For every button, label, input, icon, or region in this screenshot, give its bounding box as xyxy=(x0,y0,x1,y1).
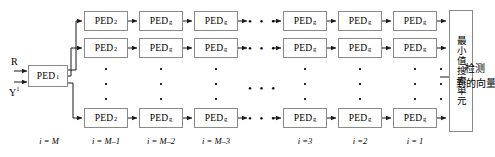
input-y-label: Y1 xyxy=(9,85,19,98)
ped-subscript: g xyxy=(224,18,227,25)
ped-subscript: g xyxy=(224,45,227,52)
ped-label: PED xyxy=(205,16,224,26)
ped-box-r3c6[interactable]: PEDg xyxy=(393,108,437,128)
ped-label: PED xyxy=(95,113,114,123)
ped-subscript: g xyxy=(313,45,316,52)
ellipsis-vertical-col5 xyxy=(359,68,361,100)
ped-label: PED xyxy=(150,16,169,26)
ped-subscript: 2 xyxy=(114,45,117,52)
ped-label: PED xyxy=(294,43,313,53)
ellipsis-vertical-col4 xyxy=(304,68,306,100)
ped-label: PED xyxy=(404,43,423,53)
ped-label: PED xyxy=(294,16,313,26)
ped-box-r1c3[interactable]: PEDg xyxy=(194,11,238,31)
index-label-2: i = M–2 xyxy=(137,136,185,146)
index-label-3: i = M–3 xyxy=(192,136,240,146)
ped-subscript: g xyxy=(169,18,172,25)
index-label-0: i = M xyxy=(28,136,70,146)
ped-subscript: g xyxy=(368,115,371,122)
ped-label: PED xyxy=(404,113,423,123)
ped-box-r1c1[interactable]: PED2 xyxy=(84,11,128,31)
output-line1: 检测 xyxy=(456,62,494,77)
ped-label: PED xyxy=(205,43,224,53)
ped-subscript: g xyxy=(224,115,227,122)
ped-label: PED xyxy=(150,113,169,123)
ped-subscript: g xyxy=(368,45,371,52)
ped-box-r1c2[interactable]: PEDg xyxy=(139,11,183,31)
output-line2: 到的向量 xyxy=(456,77,494,92)
index-label-4: i =3 xyxy=(281,136,329,146)
ped-label: PED xyxy=(95,16,114,26)
ped-subscript: 1 xyxy=(56,73,59,80)
ped-subscript: g xyxy=(169,45,172,52)
ellipsis-vertical-col6 xyxy=(414,68,416,100)
ped-subscript: g xyxy=(368,18,371,25)
ped-subscript: g xyxy=(313,18,316,25)
ped-box-r3c3[interactable]: PEDg xyxy=(194,108,238,128)
ped-label: PED xyxy=(294,113,313,123)
ellipsis-vertical-col2 xyxy=(160,68,162,100)
ped-box-r3c1[interactable]: PED2 xyxy=(84,108,128,128)
input-r-label: R xyxy=(11,56,18,67)
ped-box-r3c4[interactable]: PEDg xyxy=(283,108,327,128)
ped-subscript: g xyxy=(169,115,172,122)
ped-box-r2c4[interactable]: PEDg xyxy=(283,38,327,58)
ped-subscript: g xyxy=(423,45,426,52)
index-label-5: i =2 xyxy=(336,136,384,146)
input-y-superscript: 1 xyxy=(16,85,19,92)
ped-box-r2c3[interactable]: PEDg xyxy=(194,38,238,58)
ped-pipeline-diagram: R Y1 PED1 PED2 PEDg PEDg PEDg PEDg PEDg … xyxy=(0,0,495,157)
ellipsis-vertical-col3 xyxy=(215,68,217,100)
ped-box-r1c5[interactable]: PEDg xyxy=(338,11,382,31)
ped-box-r1c6[interactable]: PEDg xyxy=(393,11,437,31)
ellipsis-vertical-col1 xyxy=(105,68,107,100)
ped-subscript: g xyxy=(423,18,426,25)
ped-box-r2c6[interactable]: PEDg xyxy=(393,38,437,58)
ped-box-r2c5[interactable]: PEDg xyxy=(338,38,382,58)
ped-subscript: 2 xyxy=(114,18,117,25)
ped-box-r1c4[interactable]: PEDg xyxy=(283,11,327,31)
ellipsis-horizontal-row3: • • • xyxy=(248,113,278,124)
ped-subscript: 2 xyxy=(114,115,117,122)
ped-box-stage1[interactable]: PED1 xyxy=(28,65,68,87)
index-label-1: i = M–1 xyxy=(82,136,130,146)
ped-label: PED xyxy=(349,43,368,53)
ellipsis-vertical-col7 xyxy=(440,68,442,100)
ped-box-r3c5[interactable]: PEDg xyxy=(338,108,382,128)
ped-subscript: g xyxy=(313,115,316,122)
ped-label: PED xyxy=(150,43,169,53)
ped-label: PED xyxy=(404,16,423,26)
ped-subscript: g xyxy=(423,115,426,122)
ped-box-r2c2[interactable]: PEDg xyxy=(139,38,183,58)
ellipsis-horizontal-row1: • • • xyxy=(248,16,278,27)
ped-box-r3c2[interactable]: PEDg xyxy=(139,108,183,128)
ellipsis-horizontal-row2: • • • xyxy=(248,43,278,54)
ped-label: PED xyxy=(349,16,368,26)
ped-box-r2c1[interactable]: PED2 xyxy=(84,38,128,58)
output-vector-label: 检测 到的向量 xyxy=(456,62,494,91)
ped-label: PED xyxy=(37,71,56,81)
ped-label: PED xyxy=(205,113,224,123)
ellipsis-horizontal-middle: • • • xyxy=(248,83,278,94)
ped-label: PED xyxy=(95,43,114,53)
index-label-6: i = 1 xyxy=(391,136,439,146)
ped-label: PED xyxy=(349,113,368,123)
